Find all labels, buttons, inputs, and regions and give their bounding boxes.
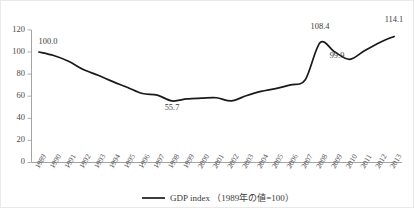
x-tick-label-1998: 1998 — [166, 152, 181, 170]
x-tick-label-2010: 2010 — [344, 152, 359, 170]
gdp-index-series-line — [39, 36, 394, 101]
x-tick-label-2000: 2000 — [196, 152, 211, 170]
annotation-2009: 99.9 — [330, 51, 345, 60]
x-tick-label-2007: 2007 — [299, 152, 314, 170]
annotation-2013: 114.1 — [385, 15, 404, 24]
legend-entry-label: GDP index （1989年の値=100） — [170, 192, 294, 203]
y-tick-marks — [28, 30, 32, 163]
y-tick-label-120: 120 — [12, 24, 25, 34]
annotation-1998: 55.7 — [165, 103, 180, 112]
x-tick-label-1996: 1996 — [136, 152, 151, 170]
x-tick-label-1997: 1997 — [151, 152, 166, 170]
x-tick-label-2004: 2004 — [255, 152, 270, 170]
x-axis-group: 1989 1990 1991 1992 1993 1994 1995 1996 … — [32, 152, 404, 170]
x-tick-label-1994: 1994 — [107, 152, 122, 170]
x-tick-label-1995: 1995 — [122, 152, 137, 170]
x-tick-label-2005: 2005 — [270, 152, 285, 170]
x-tick-label-1991: 1991 — [62, 152, 77, 170]
x-tick-label-2006: 2006 — [284, 152, 299, 170]
y-tick-label-100: 100 — [12, 46, 25, 56]
x-tick-label-2009: 2009 — [329, 152, 344, 170]
y-axis-group: 0 20 40 60 80 100 120 — [12, 24, 31, 167]
gdp-index-line-chart: 0 20 40 60 80 100 120 — [0, 0, 414, 208]
x-tick-label-2003: 2003 — [240, 152, 255, 170]
x-tick-label-2012: 2012 — [373, 152, 388, 170]
y-tick-label-60: 60 — [17, 90, 26, 100]
annotation-2008: 108.4 — [311, 22, 331, 31]
y-tick-label-40: 40 — [17, 112, 26, 122]
x-tick-label-1992: 1992 — [77, 152, 92, 170]
chart-plot-svg: 0 20 40 60 80 100 120 — [1, 1, 414, 208]
x-tick-label-1989: 1989 — [33, 152, 48, 170]
x-tick-label-2002: 2002 — [225, 152, 240, 170]
x-tick-label-1993: 1993 — [92, 152, 107, 170]
x-tick-label-2013: 2013 — [388, 152, 403, 170]
y-tick-label-80: 80 — [17, 68, 26, 78]
x-tick-label-1990: 1990 — [48, 152, 63, 170]
annotation-1989: 100.0 — [39, 37, 58, 46]
x-tick-labels: 1989 1990 1991 1992 1993 1994 1995 1996 … — [33, 152, 404, 170]
x-tick-label-2001: 2001 — [210, 152, 225, 170]
y-tick-label-0: 0 — [21, 156, 25, 166]
data-point-annotations: 100.0 55.7 108.4 99.9 114.1 — [39, 15, 404, 112]
x-tick-label-2008: 2008 — [314, 152, 329, 170]
x-tick-label-2011: 2011 — [358, 152, 373, 170]
y-tick-label-20: 20 — [17, 134, 26, 144]
x-tick-label-1999: 1999 — [181, 152, 196, 170]
chart-legend: GDP index （1989年の値=100） — [142, 192, 294, 203]
